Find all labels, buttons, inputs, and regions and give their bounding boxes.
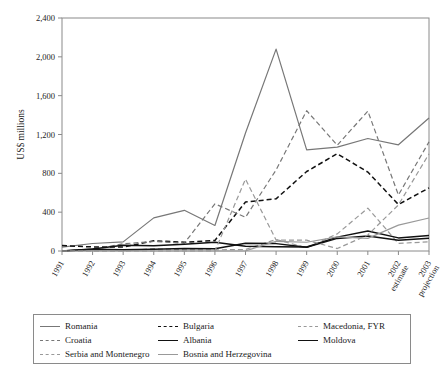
x-tick-label-group: 1992 bbox=[80, 259, 97, 279]
y-tick-label: 1,600 bbox=[36, 91, 55, 101]
x-tick-label: 1992 bbox=[80, 259, 97, 279]
legend-dashed-line-icon bbox=[158, 326, 178, 327]
y-tick-label: 0 bbox=[51, 246, 55, 256]
x-tick-label: 1995 bbox=[171, 259, 188, 279]
y-tick-label: 2,000 bbox=[36, 52, 55, 62]
legend-row: RomaniaBulgariaMacedonia, FYR bbox=[40, 319, 404, 333]
legend-item-croatia: Croatia bbox=[40, 335, 158, 346]
x-tick-label-group: 2003projection bbox=[407, 258, 441, 298]
y-tick-label: 1,200 bbox=[36, 130, 55, 140]
legend-item-bulgaria: Bulgaria bbox=[158, 321, 298, 332]
y-tick-label: 800 bbox=[42, 168, 55, 178]
x-tick-label-group: 1994 bbox=[141, 258, 159, 278]
y-tick-label: 2,400 bbox=[36, 13, 55, 23]
legend-label: Croatia bbox=[65, 335, 92, 346]
legend-label: Romania bbox=[65, 321, 98, 332]
x-tick-label: 1996 bbox=[202, 259, 219, 279]
x-tick-label: 1997 bbox=[233, 259, 250, 279]
x-tick-label: 1991 bbox=[49, 259, 66, 279]
legend-dashed-line-icon bbox=[40, 340, 60, 341]
legend-item-serbia-and-montenegro: Serbia and Montenegro bbox=[40, 349, 158, 360]
x-tick-label-group: 1996 bbox=[202, 259, 219, 279]
series-line-romania bbox=[62, 49, 429, 247]
series-line-bulgaria bbox=[62, 154, 429, 247]
x-tick-label-group: 1993 bbox=[110, 259, 127, 279]
x-tick-label: 2001 bbox=[355, 259, 372, 279]
x-tick-label: 1993 bbox=[110, 259, 127, 279]
legend-label: Albania bbox=[183, 335, 212, 346]
x-tick-label-group: 1998 bbox=[263, 259, 280, 279]
x-tick-label-group: 1991 bbox=[49, 259, 66, 279]
legend-label: Bosnia and Herzegovina bbox=[183, 349, 271, 360]
legend-row: CroatiaAlbaniaMoldova bbox=[40, 333, 404, 347]
x-tick-label: 1999 bbox=[294, 259, 311, 279]
y-axis-label: US$ millions bbox=[16, 109, 26, 160]
y-tick-label: 400 bbox=[42, 207, 55, 217]
legend-item-macedonia-fyr: Macedonia, FYR bbox=[298, 321, 385, 332]
x-tick-label-group: 2001 bbox=[355, 259, 372, 279]
legend-item-moldova: Moldova bbox=[298, 335, 356, 346]
series-line-albania bbox=[62, 231, 429, 251]
x-tick-label: 2000 bbox=[324, 259, 341, 279]
chart-legend: RomaniaBulgariaMacedonia, FYRCroatiaAlba… bbox=[33, 314, 411, 364]
x-tick-label: 1994 bbox=[141, 258, 159, 278]
legend-item-albania: Albania bbox=[158, 335, 298, 346]
legend-label: Macedonia, FYR bbox=[323, 321, 385, 332]
legend-dashed-line-icon bbox=[40, 354, 60, 355]
x-tick-label-group: 1997 bbox=[233, 259, 250, 279]
x-tick-label-group: 1999 bbox=[294, 259, 311, 279]
legend-label: Serbia and Montenegro bbox=[65, 349, 149, 360]
x-tick-label-group: 1995 bbox=[171, 259, 188, 279]
legend-solid-line-icon bbox=[158, 354, 178, 355]
legend-solid-line-icon bbox=[40, 326, 60, 327]
chart-figure: 04008001,2001,6002,0002,400US$ millions1… bbox=[0, 0, 447, 376]
legend-dashed-line-icon bbox=[298, 326, 318, 327]
x-tick-label: 1998 bbox=[263, 259, 280, 279]
x-tick-label-group: 2000 bbox=[324, 259, 341, 279]
legend-label: Bulgaria bbox=[183, 321, 214, 332]
legend-solid-line-icon bbox=[298, 340, 318, 341]
legend-row: Serbia and MontenegroBosnia and Herzegov… bbox=[40, 347, 404, 361]
legend-item-bosnia-and-herzegovina: Bosnia and Herzegovina bbox=[158, 349, 298, 360]
legend-item-romania: Romania bbox=[40, 321, 158, 332]
legend-solid-line-icon bbox=[158, 340, 178, 341]
x-tick-label-group: 2002estimate bbox=[380, 259, 411, 293]
series-line-moldova bbox=[62, 236, 429, 251]
legend-label: Moldova bbox=[323, 335, 356, 346]
